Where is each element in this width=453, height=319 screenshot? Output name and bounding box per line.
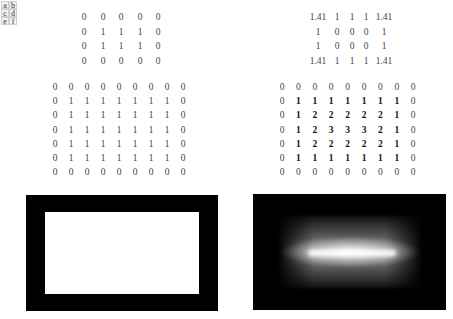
- matrix-cell: 0: [74, 41, 94, 51]
- binary-rectangle-image: [26, 195, 218, 311]
- matrix-cell: 0: [74, 56, 94, 66]
- matrix-cell: 0: [403, 153, 423, 163]
- matrix-cell: 0: [74, 27, 94, 37]
- legend-letter-c: c: [1, 9, 9, 17]
- matrix-cell: 0: [173, 153, 193, 163]
- matrix-cell: 1: [93, 41, 113, 51]
- matrix-cell: 1.41: [308, 56, 328, 66]
- distance-transform-image: [253, 194, 446, 310]
- matrix-cell: 0: [173, 110, 193, 120]
- matrix-cell: 0: [148, 12, 168, 22]
- bright-ridge: [308, 250, 396, 256]
- matrix-cell: 0: [173, 167, 193, 177]
- matrix-cell: 0: [403, 82, 423, 92]
- matrix-cell: 0: [111, 56, 131, 66]
- matrix-cell: 1: [111, 41, 131, 51]
- matrix-cell: 1: [130, 41, 150, 51]
- matrix-cell: 1.41: [308, 12, 328, 22]
- matrix-cell: 0: [148, 56, 168, 66]
- matrix-cell: 0: [173, 96, 193, 106]
- matrix-cell: 0: [130, 56, 150, 66]
- matrix-cell: 0: [356, 41, 376, 51]
- matrix-cell: 0: [173, 139, 193, 149]
- matrix-cell: 0: [148, 27, 168, 37]
- legend-letter-a: a: [1, 1, 9, 9]
- matrix-cell: 1: [93, 27, 113, 37]
- matrix-cell: 1: [374, 41, 394, 51]
- letter-legend: a b c d e f: [1, 1, 17, 25]
- matrix-cell: 0: [173, 125, 193, 135]
- matrix-cell: 1: [356, 12, 376, 22]
- matrix-cell: 1: [111, 27, 131, 37]
- matrix-cell: 1: [308, 41, 328, 51]
- white-rectangle-region: [45, 212, 199, 294]
- matrix-cell: 0: [111, 12, 131, 22]
- matrix-cell: 0: [356, 27, 376, 37]
- matrix-cell: 1: [374, 27, 394, 37]
- matrix-cell: 0: [403, 139, 423, 149]
- matrix-cell: 0: [130, 12, 150, 22]
- matrix-cell: 0: [403, 96, 423, 106]
- legend-letter-e: e: [1, 17, 9, 25]
- matrix-cell: 1.41: [374, 56, 394, 66]
- matrix-cell: 1.41: [374, 12, 394, 22]
- matrix-cell: 0: [74, 12, 94, 22]
- matrix-cell: 1: [308, 27, 328, 37]
- matrix-cell: 0: [403, 125, 423, 135]
- matrix-cell: 0: [403, 110, 423, 120]
- matrix-cell: 1: [356, 56, 376, 66]
- matrix-cell: 0: [93, 56, 113, 66]
- matrix-cell: 1: [130, 27, 150, 37]
- legend-letter-f: f: [9, 17, 17, 25]
- matrix-cell: 0: [148, 41, 168, 51]
- matrix-cell: 0: [173, 82, 193, 92]
- legend-letter-b: b: [9, 1, 17, 9]
- matrix-cell: 0: [403, 167, 423, 177]
- legend-letter-d: d: [9, 9, 17, 17]
- matrix-cell: 0: [93, 12, 113, 22]
